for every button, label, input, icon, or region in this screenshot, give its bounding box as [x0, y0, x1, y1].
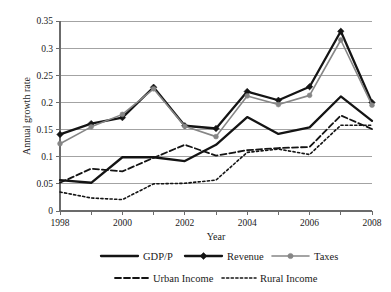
x-axis-title: Year [207, 231, 226, 242]
data-point-marker [245, 94, 250, 99]
x-tick-label: 2004 [238, 218, 257, 228]
x-tick-label: 2000 [113, 218, 132, 228]
legend-item-rural-income[interactable]: Rural Income [222, 273, 318, 284]
y-tick-label: 0.35 [36, 16, 53, 26]
y-tick-label: 0.2 [41, 98, 53, 108]
y-tick-label: 0.3 [41, 44, 53, 54]
data-point-marker [182, 124, 187, 129]
y-tick-label: 0.05 [36, 179, 53, 189]
y-axis-ticks: 00.050.10.150.20.250.30.35 [36, 16, 60, 216]
legend-marker-diamond [200, 253, 207, 260]
x-tick-label: 2006 [300, 218, 319, 228]
legend-item-gdp-p[interactable]: GDP/P [101, 251, 173, 262]
data-point-marker [151, 86, 156, 91]
y-tick-label: 0 [48, 206, 53, 216]
data-point-marker [370, 103, 375, 108]
x-tick-label: 2008 [363, 218, 382, 228]
data-point-marker [57, 131, 63, 137]
legend-label: Urban Income [153, 273, 214, 284]
legend-label: Revenue [227, 251, 264, 262]
x-tick-label: 1998 [51, 218, 70, 228]
legend-label: Taxes [314, 251, 338, 262]
legend-label: Rural Income [260, 273, 318, 284]
data-point-marker [89, 124, 94, 129]
gridlines [60, 21, 372, 211]
y-axis-title: Annual growth rate [21, 77, 32, 155]
legend-label: GDP/P [143, 251, 173, 262]
y-tick-label: 0.15 [36, 125, 53, 135]
data-point-marker [276, 102, 281, 107]
y-tick-label: 0.25 [36, 71, 53, 81]
line-chart: 00.050.10.150.20.250.30.35 1998200020022… [0, 0, 391, 292]
legend-item-revenue[interactable]: Revenue [185, 251, 264, 262]
data-point-marker [214, 134, 219, 139]
data-point-marker [120, 112, 125, 117]
legend-marker-circle [288, 253, 293, 258]
series-line [60, 31, 372, 134]
chart-figure: 00.050.10.150.20.250.30.35 1998200020022… [0, 0, 391, 292]
legend-item-taxes[interactable]: Taxes [272, 251, 338, 262]
chart-legend: GDP/PRevenueTaxesUrban IncomeRural Incom… [101, 251, 338, 284]
data-point-marker [58, 141, 63, 146]
series-layer [57, 28, 375, 199]
data-point-marker [307, 93, 312, 98]
y-tick-label: 0.1 [41, 152, 53, 162]
legend-item-urban-income[interactable]: Urban Income [115, 273, 214, 284]
x-tick-label: 2002 [175, 218, 194, 228]
data-point-marker [338, 38, 343, 43]
x-axis-ticks: 199820002002200420062008 [51, 211, 382, 228]
